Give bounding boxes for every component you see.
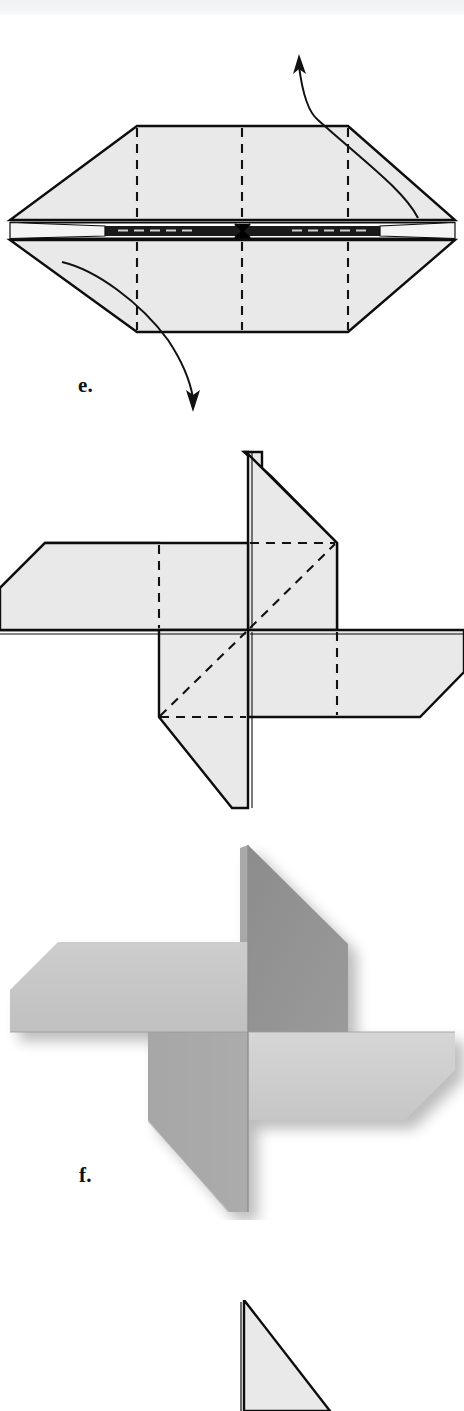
figure-pinwheel-diagram — [0, 440, 464, 810]
photo-blade-left — [10, 942, 248, 1032]
blade-left-main — [0, 543, 248, 630]
blade-bottom-left-main — [159, 630, 248, 808]
photo-blade-top-right — [248, 845, 348, 1032]
figure-next-partial — [0, 1300, 464, 1411]
step-label-f: f. — [79, 1163, 92, 1188]
figure-f-photograph — [0, 820, 464, 1220]
pinwheel-photo-body — [10, 845, 455, 1212]
blade-top-right-main — [246, 452, 337, 630]
photo-blade-right — [248, 1032, 455, 1120]
photo-blade-bottom-left-shade — [148, 1032, 248, 1212]
pleat-wedge-right — [380, 223, 455, 239]
lower-paper-face — [10, 240, 455, 332]
pleat-wedge-left — [10, 223, 105, 239]
step-label-e: e. — [78, 373, 93, 398]
next-figure-triangle — [244, 1300, 330, 1411]
hexagon-lower-half — [10, 240, 455, 332]
figure-e-diagram — [0, 40, 464, 420]
center-pleat-band — [10, 221, 455, 239]
upper-paper-face — [10, 126, 455, 220]
hexagon-upper-half — [10, 126, 455, 220]
blade-right-main — [248, 630, 464, 717]
page-top-band — [0, 0, 464, 15]
page-canvas: e. — [0, 0, 464, 1411]
